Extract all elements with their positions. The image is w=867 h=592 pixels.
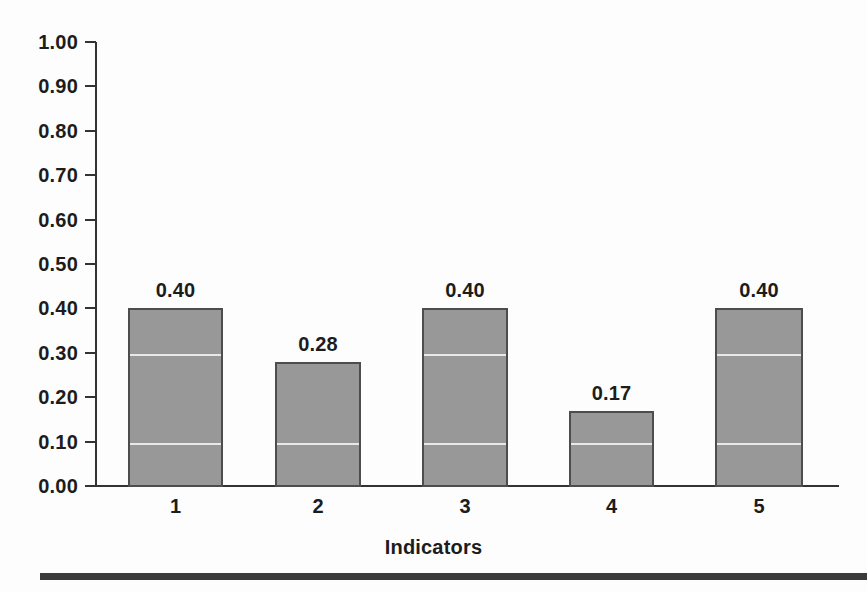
y-axis-tick [85,485,96,487]
bar-gridline-artifact [424,443,506,445]
y-axis-tick [85,41,96,43]
y-axis-tick [85,130,96,132]
plot-area: 1.000.900.800.700.600.500.400.300.200.10… [0,0,867,592]
y-axis-tick [85,263,96,265]
bar-value-label: 0.40 [422,280,508,300]
bar [715,308,803,487]
y-axis-tick [85,396,96,398]
bar-value-label: 0.17 [569,383,654,403]
y-axis-tick-label: 0.20 [0,387,78,407]
bar-gridline-artifact [130,443,221,445]
y-axis-tick-label: 0.00 [0,476,78,496]
y-axis-tick-label: 1.00 [0,32,78,52]
y-axis-tick [85,219,96,221]
y-axis-tick-label-text: 0.70 [0,165,78,185]
y-axis-tick [85,307,96,309]
bar-gridline-artifact [571,443,652,445]
bar-gridline-artifact [130,354,221,356]
y-axis-tick-label-text: 0.10 [0,432,78,452]
x-axis-tick-label: 3 [422,496,508,516]
y-axis-tick-label-text: 0.90 [0,76,78,96]
bar [569,411,654,487]
y-axis-tick-label: 0.10 [0,432,78,452]
y-axis-tick-label-text: 0.00 [0,476,78,496]
bar-gridline-artifact [717,443,801,445]
y-axis-tick [85,352,96,354]
x-axis-tick-label: 2 [275,496,361,516]
bar-chart-figure: 1.000.900.800.700.600.500.400.300.200.10… [0,0,867,592]
y-axis-tick-label-text: 0.60 [0,210,78,230]
bar [275,362,361,487]
bar [422,308,508,487]
y-axis-tick-label: 0.90 [0,76,78,96]
bar-gridline-artifact [717,354,801,356]
y-axis-tick-label: 0.80 [0,121,78,141]
bottom-rule [40,573,867,580]
x-axis-tick-label: 5 [715,496,803,516]
y-axis-tick-label: 0.50 [0,254,78,274]
bar-value-label: 0.40 [715,280,803,300]
y-axis-tick-label: 0.60 [0,210,78,230]
bar-gridline-artifact [277,443,359,445]
bar [128,308,223,487]
y-axis-tick-label-text: 0.50 [0,254,78,274]
bar-value-label: 0.28 [275,334,361,354]
y-axis-tick-label-text: 0.20 [0,387,78,407]
x-axis-tick-label: 1 [128,496,223,516]
y-axis-tick-label-text: 0.80 [0,121,78,141]
bar-gridline-artifact [424,354,506,356]
x-axis-tick-label: 4 [569,496,654,516]
y-axis-tick-label: 0.70 [0,165,78,185]
bar-value-label: 0.40 [128,280,223,300]
y-axis-tick [85,441,96,443]
x-axis-title: Indicators [0,536,867,559]
y-axis-tick-label-text: 0.30 [0,343,78,363]
y-axis-tick-label-text: 0.40 [0,298,78,318]
y-axis-tick-label-text: 1.00 [0,32,78,52]
y-axis-tick [85,85,96,87]
y-axis-tick-label: 0.30 [0,343,78,363]
y-axis-tick-label: 0.40 [0,298,78,318]
y-axis-tick [85,174,96,176]
